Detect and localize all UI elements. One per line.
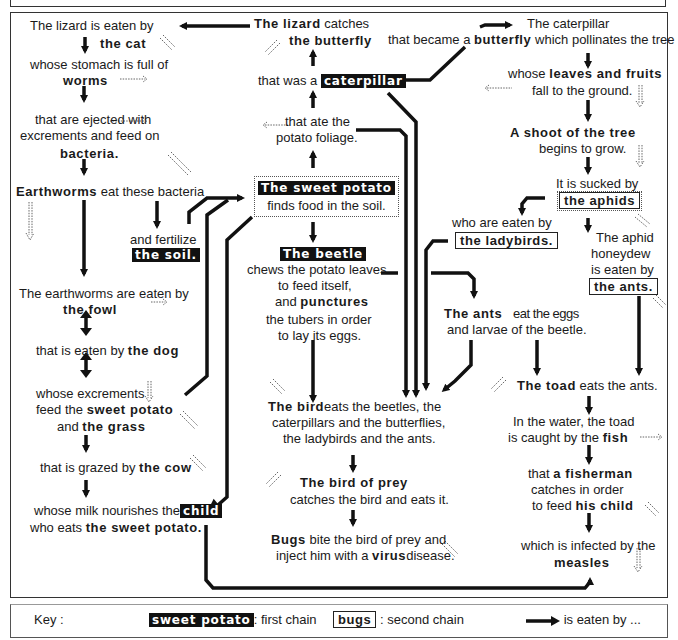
node-infected: which is infected by the [521, 538, 655, 554]
node-the-ants-box: the ants. [589, 279, 658, 295]
node-excrements-feed: excrements and feed on [20, 128, 159, 144]
node-shoot: A shoot of the tree [510, 125, 636, 141]
node-worms: worms [63, 73, 108, 89]
node-feed-sweet-potato: feed the sweet potato [36, 402, 173, 418]
node-larvae: and larvae of the beetle. [447, 322, 587, 338]
node-the-cat: the cat [100, 36, 146, 52]
node-catches-order: catches in order [531, 482, 624, 498]
node-the-fowl: the fowl [63, 302, 117, 318]
node-potato-foliage: potato foliage. [276, 130, 358, 146]
node-bird-eats-2: caterpillars and the butterflies, [272, 415, 445, 431]
node-bacteria: bacteria. [60, 146, 119, 162]
node-inject: inject him with a virusdisease. [276, 548, 455, 564]
node-aphid-1: The aphid [596, 230, 654, 246]
node-ate-the: that ate the [285, 114, 350, 130]
node-the-soil: the soil. [132, 247, 200, 263]
node-leaves-fruits: whose leaves and fruits [508, 66, 662, 82]
node-bird-eats-3: the ladybirds and the ants. [283, 431, 436, 447]
node-his-child: to feed his child [532, 498, 634, 514]
node-aphid-2: honeydew [591, 246, 650, 262]
node-to-feed: to feed itself, [278, 278, 352, 294]
key-label: Key : [34, 612, 64, 628]
node-the-ladybirds: the ladybirds. [455, 233, 558, 249]
node-the-butterfly: the butterfly [289, 33, 372, 49]
node-milk-child: whose milk nourishes thechild [34, 503, 222, 519]
node-aphid-3: is eaten by [591, 262, 654, 278]
node-earthworms-eaten: The earthworms are eaten by [19, 286, 189, 302]
node-the-aphids: the aphids [557, 191, 642, 211]
key-first-sample: sweet potato [149, 613, 254, 627]
node-bird-of-prey: The bird of prey [300, 475, 408, 491]
key-second-chain: bugs : second chain [333, 612, 464, 628]
node-the-grass: and the grass [57, 419, 146, 435]
node-eaten-by-dog: that is eaten by the dog [36, 343, 179, 359]
node-lizard-eaten: The lizard is eaten by [30, 18, 154, 34]
node-tubers: the tubers in order [266, 312, 372, 328]
node-sweet-potato-box: The sweet potato finds food in the soil. [254, 176, 399, 217]
key-second-sample: bugs [333, 611, 376, 628]
node-grazed-by-cow: that is grazed by the cow [40, 460, 192, 476]
node-lizard-catches: The lizard catches [254, 16, 369, 32]
key-first-chain: sweet potato: first chain [149, 612, 317, 628]
node-who-eaten: who are eaten by [452, 215, 552, 231]
node-measles: measles [554, 555, 610, 571]
node-and-fertilize: and fertilize [130, 232, 196, 248]
node-chews: chews the potato leaves [247, 262, 386, 278]
node-sucked-by: It is sucked by [556, 176, 638, 192]
node-bugs: Bugs bite the bird of prey and [271, 532, 446, 548]
node-became-butterfly: that became a butterfly which pollinates… [388, 32, 675, 48]
arrow-right-icon [526, 616, 560, 626]
node-caterpillar: that was a caterpillar [258, 73, 406, 89]
node-the-ants: The ants eat the eggs [444, 306, 579, 322]
node-punctures: and punctures [275, 294, 369, 310]
node-the-toad: The toad eats the ants. [517, 378, 658, 394]
node-the-bird: The birdeats the beetles, the [268, 399, 441, 415]
node-begins-grow: begins to grow. [539, 141, 626, 157]
node-stomach: whose stomach is full of [30, 57, 168, 73]
key-arrow: is eaten by ... [526, 612, 641, 628]
node-catches-bird: catches the bird and eats it. [290, 492, 449, 508]
node-fall-ground: fall to the ground. [532, 83, 632, 99]
node-earthworms: Earthworms eat these bacteria [16, 184, 204, 200]
top-frame [10, 0, 666, 7]
node-in-water: In the water, the toad [513, 414, 634, 430]
node-lay-eggs: to lay its eggs. [278, 328, 361, 344]
node-ejected: that are ejected with [35, 112, 151, 128]
node-caterpillar-became: The caterpillar [527, 16, 609, 32]
node-whose-excrements: whose excrements [36, 386, 144, 402]
node-the-beetle: The beetle [280, 246, 366, 262]
node-who-eats: who eats the sweet potato. [30, 520, 202, 536]
node-fisherman: that a fisherman [528, 466, 633, 482]
node-caught-fish: is caught by the fish [508, 430, 628, 446]
